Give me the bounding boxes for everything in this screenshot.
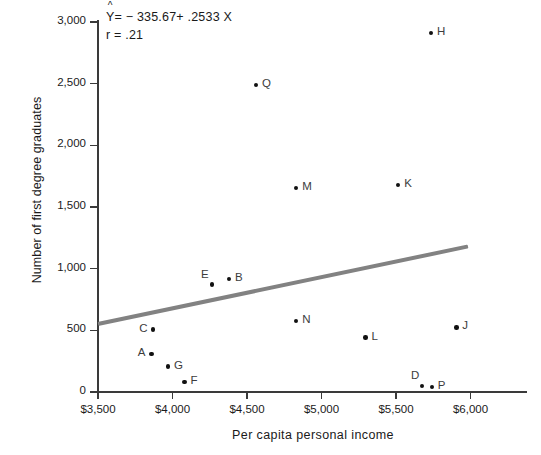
y-axis-tick [90, 83, 97, 85]
regression-line [98, 245, 468, 326]
x-axis-line [97, 391, 527, 393]
y-hat-symbol: ^Y [106, 8, 115, 26]
x-axis-tick [395, 392, 397, 399]
y-axis-tick-label: 1,500 [42, 199, 86, 211]
data-point-label: D [411, 369, 419, 381]
data-point-label: B [235, 271, 243, 283]
y-axis-tick [90, 330, 97, 332]
y-axis-tick [90, 21, 97, 23]
x-axis-tick [172, 392, 174, 399]
data-point [294, 319, 299, 324]
equation-text-line: ^Y= − 335.67+ .2533 X [106, 8, 232, 26]
data-point [254, 83, 259, 88]
x-axis-tick-label: $5,500 [361, 403, 431, 415]
data-point-label: K [404, 177, 412, 189]
data-point [166, 364, 171, 369]
x-axis-tick-label: $5,000 [287, 403, 357, 415]
x-axis-tick [246, 392, 248, 399]
y-axis-tick-label: 2,500 [42, 76, 86, 88]
data-point [454, 325, 459, 330]
y-symbol: Y [106, 10, 115, 24]
x-axis-tick-label: $4,500 [212, 403, 282, 415]
y-axis-tick-label: 500 [42, 322, 86, 334]
data-point-label: C [139, 322, 147, 334]
y-axis-tick-label: 0 [42, 384, 86, 396]
x-axis-tick-label: $3,500 [63, 403, 133, 415]
data-point-label: G [174, 359, 183, 371]
y-axis-tick-label: 3,000 [42, 14, 86, 26]
y-axis-tick [90, 268, 97, 270]
data-point-label: A [138, 346, 146, 358]
y-axis-line [97, 20, 99, 394]
x-axis-tick [97, 392, 99, 399]
data-point-label: M [302, 180, 312, 192]
data-point [149, 352, 154, 357]
data-point-label: Q [262, 77, 271, 89]
data-point [420, 384, 425, 389]
data-point-label: F [190, 374, 197, 386]
y-axis-tick [90, 145, 97, 147]
y-axis-tick-label: 1,000 [42, 261, 86, 273]
data-point [210, 282, 215, 287]
data-point [396, 183, 401, 188]
equation-body: = − 335.67+ .2533 X [115, 10, 232, 24]
data-point-label: P [438, 379, 446, 391]
y-axis-tick-label: 2,000 [42, 137, 86, 149]
data-point [363, 335, 368, 340]
hat-accent: ^ [108, 1, 113, 11]
x-axis-title: Per capita personal income [98, 428, 528, 442]
data-point-label: E [201, 268, 209, 280]
x-axis-tick-label: $6,000 [436, 403, 506, 415]
data-point [430, 385, 435, 390]
regression-equation-annotation: ^Y= − 335.67+ .2533 X r = .21 [106, 8, 232, 44]
data-point-label: L [371, 330, 377, 342]
scatter-plot-figure: Number of first degree graduates ^Y= − 3… [0, 0, 541, 455]
data-point [151, 327, 156, 332]
data-point [429, 31, 434, 36]
y-axis-tick [90, 206, 97, 208]
data-point-label: N [302, 313, 310, 325]
data-point [182, 380, 187, 385]
x-axis-tick [470, 392, 472, 399]
data-point [294, 186, 299, 191]
data-point [227, 277, 232, 282]
y-axis-tick [90, 391, 97, 393]
data-point-label: J [462, 319, 468, 331]
x-axis-tick-label: $4,000 [138, 403, 208, 415]
correlation-coefficient-text: r = .21 [106, 26, 232, 44]
data-point-label: H [437, 25, 445, 37]
x-axis-tick [321, 392, 323, 399]
